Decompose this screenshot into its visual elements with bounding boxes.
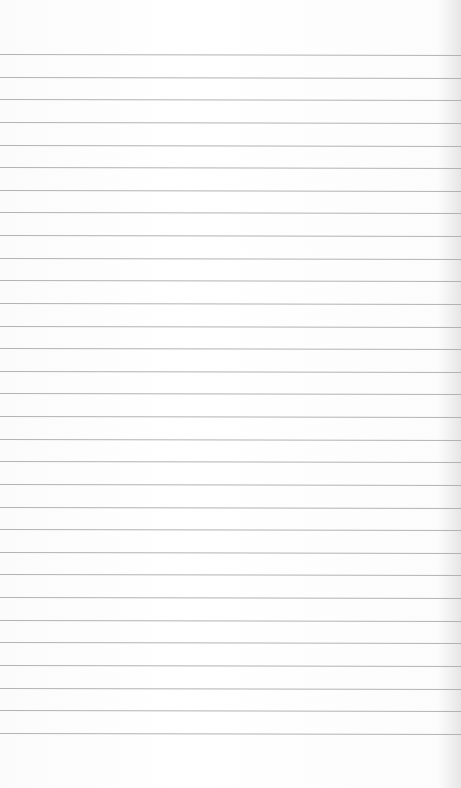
ruled-line [0, 507, 461, 509]
ruled-line [0, 326, 461, 328]
ruled-line [0, 190, 461, 192]
ruled-line [0, 439, 461, 441]
ruled-line [0, 574, 461, 576]
ruled-line [0, 258, 461, 260]
ruled-line [0, 529, 461, 531]
ruled-line [0, 303, 461, 305]
ruled-line [0, 371, 461, 373]
ruled-line [0, 688, 461, 690]
ruled-line [0, 416, 461, 418]
ruled-line [0, 393, 461, 395]
ruled-line [0, 54, 461, 56]
ruled-line [0, 145, 461, 147]
ruled-line [0, 484, 461, 486]
ruled-line [0, 167, 461, 169]
ruled-line [0, 552, 461, 554]
ruled-line [0, 733, 461, 735]
ruled-line [0, 597, 461, 599]
ruled-line [0, 77, 461, 79]
lined-paper-sheet [0, 0, 461, 788]
ruled-line [0, 620, 461, 622]
ruled-line [0, 348, 461, 350]
ruled-line [0, 710, 461, 712]
ruled-line [0, 665, 461, 667]
ruled-line [0, 122, 461, 124]
ruled-line [0, 99, 461, 101]
ruled-line [0, 642, 461, 644]
ruled-line [0, 212, 461, 214]
ruled-line [0, 235, 461, 237]
ruled-line [0, 280, 461, 282]
ruled-line [0, 461, 461, 463]
